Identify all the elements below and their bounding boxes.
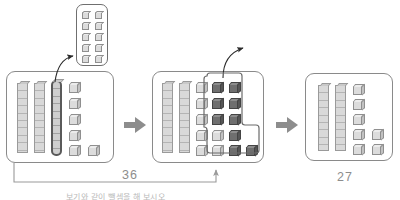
ten-rod-icon: [17, 83, 28, 153]
unit-cube-icon: [82, 23, 89, 30]
unit-cube-icon: [82, 56, 89, 63]
unit-cube-icon: [372, 131, 381, 140]
unit-cube-icon-selected: [229, 100, 238, 109]
diagram-caption: 보기와 같이 뺄셈을 해 보시오: [66, 191, 165, 200]
unit-cube-icon-selected: [246, 147, 255, 156]
ten-rod-icon: [179, 83, 190, 153]
unit-cube-icon-selected: [229, 116, 238, 125]
label-twenty-seven: 27: [337, 170, 353, 184]
label-thirty-six: 36: [122, 168, 138, 182]
diagram-canvas: 36 27 보기와 같이 뺄셈을 해 보시오: [0, 0, 400, 200]
unit-cube-icon: [196, 100, 205, 109]
unit-cube-icon: [95, 12, 102, 19]
unit-cube-icon: [212, 132, 221, 141]
unit-cube-icon: [69, 84, 78, 93]
unit-cube-icon-selected: [229, 84, 238, 93]
ten-rod-icon-selected[interactable]: [51, 80, 62, 156]
unit-cube-icon: [82, 12, 89, 19]
unit-cube-icon: [88, 147, 97, 156]
unit-cube-icon: [353, 101, 362, 110]
value-connector-line: [14, 163, 216, 182]
ten-rod-icon: [335, 85, 346, 151]
unit-cube-icon: [95, 34, 102, 41]
unit-cube-icon: [69, 147, 78, 156]
unit-cube-icon-selected: [229, 132, 238, 141]
unit-cube-icon: [82, 45, 89, 52]
unit-cube-icon: [95, 23, 102, 30]
unit-cube-icon: [372, 146, 381, 155]
unit-cube-icon: [353, 131, 362, 140]
panel-thirty-six[interactable]: [6, 71, 114, 163]
unit-cube-icon: [212, 147, 221, 156]
unit-cube-icon: [196, 116, 205, 125]
unit-cube-icon: [196, 132, 205, 141]
unit-cube-icon: [95, 45, 102, 52]
ten-rod-icon: [34, 83, 45, 153]
ten-rod-icon: [318, 85, 329, 151]
unit-cube-icon-selected: [212, 84, 221, 93]
panel-twenty-seven[interactable]: [305, 73, 393, 161]
unit-cube-icon-selected: [212, 116, 221, 125]
unit-cube-icon: [82, 34, 89, 41]
unit-cube-icon: [69, 100, 78, 109]
right-arrow-icon: [276, 117, 298, 133]
unit-cube-icon-selected: [229, 147, 238, 156]
unit-cube-icon: [353, 146, 362, 155]
unit-cube-icon: [353, 116, 362, 125]
unit-cube-icon: [196, 84, 205, 93]
right-arrow-icon: [124, 117, 146, 133]
ten-rod-icon: [162, 83, 173, 153]
panel-regrouping[interactable]: [152, 71, 264, 163]
unit-cube-icon: [95, 56, 102, 63]
unit-cube-icon: [353, 86, 362, 95]
unit-cube-icon: [196, 147, 205, 156]
unit-cube-icon: [69, 132, 78, 141]
unit-cube-icon-selected: [212, 100, 221, 109]
unit-cube-icon: [69, 116, 78, 125]
decomposed-rod-callout: [76, 4, 108, 66]
